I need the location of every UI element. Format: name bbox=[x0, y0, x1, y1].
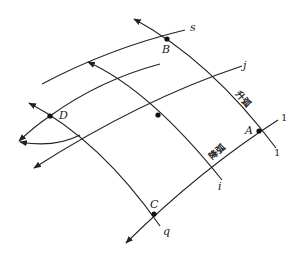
label-D: D bbox=[58, 109, 68, 122]
point-B bbox=[164, 36, 169, 41]
label-s: s bbox=[190, 21, 196, 34]
label-1-lower: 1 bbox=[274, 147, 280, 158]
point-A bbox=[256, 128, 261, 133]
label-B: B bbox=[161, 43, 170, 56]
label-j: j bbox=[240, 59, 247, 72]
point-center bbox=[155, 112, 160, 117]
curve-1-descending-arc bbox=[126, 120, 278, 243]
point-C bbox=[151, 211, 156, 216]
label-i: i bbox=[218, 180, 222, 193]
curve-arrow-lower-left bbox=[20, 135, 80, 144]
point-D bbox=[47, 113, 52, 118]
label-A: A bbox=[244, 124, 253, 137]
label-q: q bbox=[163, 225, 170, 238]
label-C: C bbox=[150, 198, 159, 211]
curve-D bbox=[19, 64, 160, 141]
label-ascending-arc: 升弧 bbox=[233, 88, 253, 109]
curve-D-to-C bbox=[29, 103, 160, 226]
label-descending-arc: 降弧 bbox=[206, 142, 227, 162]
curvilinear-grid-diagram: B D A C s j i q 1 1 升弧 降弧 bbox=[0, 0, 299, 257]
label-1-upper: 1 bbox=[281, 112, 287, 123]
